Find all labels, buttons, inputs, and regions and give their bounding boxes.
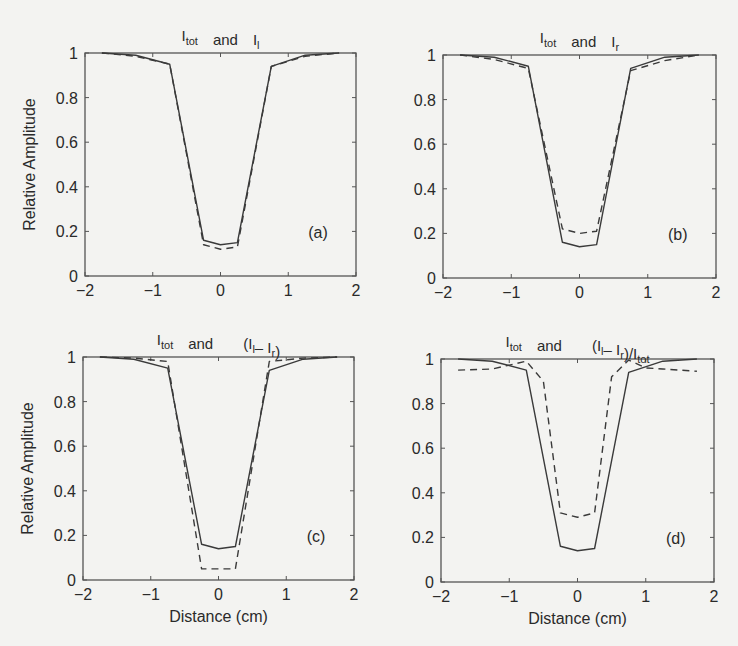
y-tick-label: 0.4 (56, 179, 78, 196)
y-tick-label: 0.4 (414, 181, 436, 198)
y-tick-label: 0 (425, 574, 434, 591)
x-tick-label: −2 (76, 282, 94, 299)
y-axis-label: Relative Amplitude (19, 402, 36, 535)
y-axis-label: Relative Amplitude (21, 98, 38, 231)
series-dashed (458, 360, 697, 517)
y-tick-label: 0.8 (412, 396, 434, 413)
x-tick-label: 2 (712, 284, 721, 301)
y-tick-label: 0.6 (412, 440, 434, 457)
x-tick-label: −1 (144, 282, 162, 299)
chart-panel-a: −2−101200.20.40.60.81Itot and Il(a)Relat… (21, 27, 361, 299)
figure-canvas: −2−101200.20.40.60.81Itot and Il(a)Relat… (0, 0, 738, 646)
series-solid (458, 359, 697, 551)
y-tick-label: 0.8 (414, 92, 436, 109)
panel-label: (d) (666, 530, 686, 547)
chart-panel-b: −2−101200.20.40.60.81Itot and Ir(b) (414, 29, 721, 301)
series-solid (460, 55, 699, 247)
x-tick-label: 1 (284, 282, 293, 299)
axes-box (443, 55, 716, 278)
x-tick-label: 1 (641, 588, 650, 605)
x-tick-label: 0 (575, 284, 584, 301)
chart-title: Itot and Ir (540, 29, 620, 53)
x-axis-label: Distance (cm) (169, 608, 268, 625)
x-tick-label: 2 (710, 588, 719, 605)
y-tick-label: 0.6 (56, 134, 78, 151)
y-tick-label: 0 (69, 268, 78, 285)
y-tick-label: 0.2 (56, 223, 78, 240)
x-tick-label: −1 (142, 586, 160, 603)
x-tick-label: −1 (502, 284, 520, 301)
chart-panel-c: −2−101200.20.40.60.81Itot and (Il– Ir)(c… (19, 331, 359, 625)
y-tick-label: 0.2 (54, 527, 76, 544)
series-solid (102, 53, 339, 245)
x-tick-label: 1 (282, 586, 291, 603)
panel-label: (b) (668, 226, 688, 243)
axes-box (83, 357, 354, 580)
chart-title: Itot and (Il– Ir) (157, 331, 280, 360)
axes-box (441, 359, 714, 582)
panel-label: (a) (308, 224, 328, 241)
y-tick-label: 1 (427, 47, 436, 64)
y-tick-label: 0.2 (412, 529, 434, 546)
series-dashed (100, 357, 337, 569)
x-tick-label: 2 (352, 282, 361, 299)
x-tick-label: 0 (573, 588, 582, 605)
y-tick-label: 0.8 (54, 394, 76, 411)
series-dashed (102, 53, 339, 249)
y-tick-label: 0.6 (414, 136, 436, 153)
x-tick-label: −2 (434, 284, 452, 301)
y-tick-label: 1 (425, 351, 434, 368)
y-tick-label: 1 (69, 45, 78, 62)
series-solid (100, 357, 337, 549)
panel-label: (c) (307, 528, 326, 545)
x-tick-label: −1 (500, 588, 518, 605)
y-tick-label: 1 (67, 349, 76, 366)
y-tick-label: 0.4 (412, 485, 434, 502)
y-tick-label: 0 (427, 270, 436, 287)
x-tick-label: 1 (643, 284, 652, 301)
x-tick-label: 2 (350, 586, 359, 603)
x-tick-label: −2 (432, 588, 450, 605)
y-tick-label: 0.4 (54, 483, 76, 500)
y-tick-label: 0.2 (414, 225, 436, 242)
x-axis-label: Distance (cm) (528, 610, 627, 627)
chart-title: Itot and Il (181, 27, 259, 51)
x-tick-label: 0 (216, 282, 225, 299)
x-tick-label: 0 (214, 586, 223, 603)
series-dashed (460, 55, 699, 233)
axes-box (85, 53, 356, 276)
chart-panel-d: −2−101200.20.40.60.81Itot and (Il– Ir)/I… (412, 333, 719, 627)
y-tick-label: 0.6 (54, 438, 76, 455)
y-tick-label: 0.8 (56, 90, 78, 107)
x-tick-label: −2 (74, 586, 92, 603)
y-tick-label: 0 (67, 572, 76, 589)
